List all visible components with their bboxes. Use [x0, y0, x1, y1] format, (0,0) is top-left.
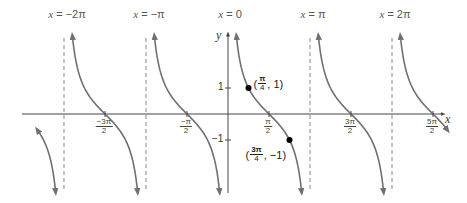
point-label: (3π4, −1): [246, 146, 287, 163]
x-tick-label: 5π2: [426, 118, 438, 135]
asymptote-label: x = 2π: [379, 8, 410, 20]
asymptote-label: x = −2π: [48, 8, 86, 20]
x-tick-label: −3π2: [96, 118, 113, 135]
labeled-point: [287, 137, 293, 143]
y-tick-label: 1: [218, 81, 224, 92]
x-tick-label: 3π2: [344, 118, 356, 135]
cot-branch: [400, 36, 447, 130]
asymptote-label: x = π: [300, 8, 325, 20]
cotangent-graph: [0, 0, 467, 203]
labeled-point: [246, 85, 252, 91]
asymptote-label: x = 0: [218, 8, 242, 20]
x-axis-label: x: [445, 112, 450, 127]
y-tick-label: −1: [212, 133, 223, 144]
x-tick-label: π2: [264, 118, 272, 135]
x-tick-label: −π2: [180, 118, 192, 135]
point-label: (π4, 1): [254, 75, 284, 92]
y-axis-label: y: [216, 28, 221, 43]
asymptote-label: x = −π: [133, 8, 164, 20]
cot-branch: [37, 130, 55, 192]
